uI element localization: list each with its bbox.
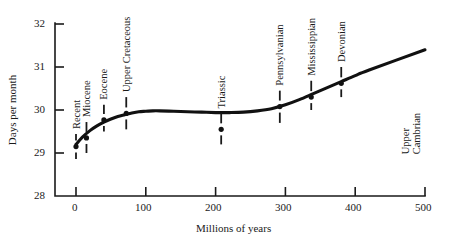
svg-text:Cambrian: Cambrian xyxy=(411,112,422,154)
y-tick-label-30: 30 xyxy=(34,104,45,115)
x-axis-title: Millions of years xyxy=(196,222,271,234)
svg-text:Recent: Recent xyxy=(71,100,82,129)
axis-lines xyxy=(55,23,425,196)
y-tick-label-31: 31 xyxy=(34,61,45,72)
x-tick-label-100: 100 xyxy=(135,202,152,213)
svg-text:Mississippian: Mississippian xyxy=(306,17,317,76)
svg-text:Devonian: Devonian xyxy=(336,20,347,62)
annotation-upper-cambrian: UpperCambrian xyxy=(400,112,422,154)
y-axis-title: Days per month xyxy=(6,74,18,145)
x-tick-label-500: 500 xyxy=(415,202,432,213)
y-axis-tick-marks xyxy=(55,24,64,153)
svg-text:Eocene: Eocene xyxy=(98,69,109,100)
x-tick-label-300: 300 xyxy=(275,202,292,213)
y-tick-label-29: 29 xyxy=(34,147,45,158)
svg-text:Miocene: Miocene xyxy=(81,80,92,117)
svg-text:Upper: Upper xyxy=(400,128,411,155)
data-markers xyxy=(73,81,343,149)
y-tick-label-28: 28 xyxy=(34,190,45,201)
y-tick-label-32: 32 xyxy=(34,18,45,29)
x-tick-label-200: 200 xyxy=(205,202,222,213)
x-axis-tick-marks xyxy=(76,187,425,196)
svg-text:Upper Cretaceous: Upper Cretaceous xyxy=(121,17,132,93)
chart-figure: RecentMioceneEoceneUpper CretaceousTrias… xyxy=(0,0,455,245)
svg-text:Pennsylvanian: Pennsylvanian xyxy=(274,24,285,86)
x-tick-label-400: 400 xyxy=(345,202,362,213)
plot-area: RecentMioceneEoceneUpper CretaceousTrias… xyxy=(0,0,455,245)
x-tick-label-0: 0 xyxy=(72,202,78,213)
svg-text:Triassic: Triassic xyxy=(216,75,227,108)
